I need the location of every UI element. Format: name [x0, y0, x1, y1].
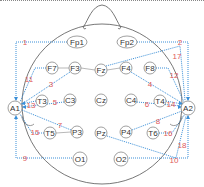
- label-pz: Pz: [96, 129, 105, 138]
- label-16: 16: [164, 129, 173, 138]
- label-f7: F7: [47, 64, 57, 73]
- label-12: 12: [170, 71, 179, 80]
- label-c4: C4: [126, 96, 137, 105]
- label-18: 18: [178, 141, 187, 150]
- label-11: 11: [25, 75, 34, 84]
- label-f8: F8: [145, 64, 155, 73]
- label-4: 4: [148, 80, 153, 89]
- label-t5: T5: [45, 129, 55, 138]
- label-5: 5: [53, 98, 58, 107]
- label-o2: O2: [116, 155, 127, 164]
- label-10: 10: [170, 156, 179, 165]
- label-fp2: Fp2: [120, 38, 134, 47]
- label-3: 3: [49, 80, 54, 89]
- label-13: 13: [27, 101, 36, 110]
- label-fp1: Fp1: [70, 38, 84, 47]
- label-a1: A1: [10, 104, 20, 113]
- label-8: 8: [156, 117, 161, 126]
- label-15: 15: [31, 128, 40, 137]
- label-6: 6: [145, 100, 150, 109]
- label-t4: T4: [155, 97, 165, 106]
- label-2: 2: [178, 38, 183, 47]
- label-t3: T3: [37, 97, 47, 106]
- label-cz: Cz: [96, 96, 106, 105]
- label-p4: P4: [121, 128, 131, 137]
- label-p3: P3: [72, 128, 82, 137]
- cropped-top-border: [0, 0, 204, 4]
- label-f3: F3: [70, 64, 80, 73]
- label-f4: F4: [121, 64, 131, 73]
- eeg-montage-diagram: 1 2 3 4 5 6 7 8 9 10 11 12 13 14 15 16 1…: [0, 0, 204, 187]
- label-o1: O1: [75, 155, 86, 164]
- label-14: 14: [167, 100, 176, 109]
- label-c3: C3: [65, 96, 76, 105]
- label-a2: A2: [183, 104, 193, 113]
- label-1: 1: [23, 38, 28, 47]
- label-9: 9: [23, 154, 28, 163]
- label-7: 7: [58, 121, 63, 130]
- label-17: 17: [173, 52, 182, 61]
- label-t6: T6: [148, 129, 158, 138]
- label-fz: Fz: [97, 66, 106, 75]
